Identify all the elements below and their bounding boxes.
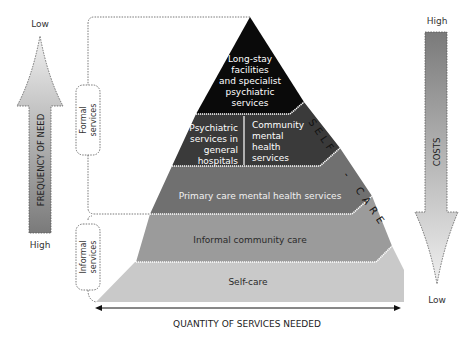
formal-services-label-line2: services — [89, 104, 98, 137]
svg-text:health: health — [252, 142, 281, 152]
svg-text:facilities: facilities — [231, 65, 269, 75]
costs-high-label: High — [427, 16, 448, 26]
pyramid: Long-stay facilities and specialist psyc… — [96, 17, 404, 302]
svg-text:Long-stay: Long-stay — [228, 54, 273, 64]
svg-text:hospitals: hospitals — [198, 156, 239, 166]
informal-services-label-line1: Informal — [79, 240, 88, 273]
svg-text:Community: Community — [252, 120, 305, 130]
self-care-label: Self-care — [228, 277, 268, 287]
primary-care-label: Primary care mental health services — [179, 191, 342, 201]
informal-services-bracket: Informal services — [76, 216, 100, 302]
svg-text:general: general — [204, 145, 238, 155]
arrow-right-icon — [394, 305, 401, 311]
svg-text:services: services — [252, 153, 289, 163]
services-pyramid-diagram: Low High FREQUENCY OF NEED High Low COST… — [0, 0, 476, 341]
frequency-of-need-arrow: Low High FREQUENCY OF NEED — [17, 19, 63, 250]
svg-text:and specialist: and specialist — [219, 76, 281, 86]
svg-text:mental: mental — [252, 131, 284, 141]
frequency-of-need-label: FREQUENCY OF NEED — [36, 113, 46, 206]
svg-text:Psychiatric: Psychiatric — [189, 123, 238, 133]
quantity-axis: QUANTITY OF SERVICES NEEDED — [95, 305, 401, 329]
svg-text:services in: services in — [190, 134, 238, 144]
informal-community-care-label: Informal community care — [193, 235, 307, 245]
informal-services-label-line2: services — [89, 241, 98, 274]
frequency-low-label: Low — [31, 19, 49, 29]
costs-arrow: High Low COSTS — [415, 16, 458, 305]
costs-low-label: Low — [428, 295, 446, 305]
costs-label: COSTS — [432, 138, 442, 167]
frequency-high-label: High — [30, 240, 51, 250]
quantity-of-services-label: QUANTITY OF SERVICES NEEDED — [173, 319, 321, 329]
svg-text:psychiatric: psychiatric — [225, 87, 274, 97]
arrow-left-icon — [95, 305, 102, 311]
formal-services-label-line1: Formal — [79, 106, 88, 133]
svg-text:services: services — [232, 98, 269, 108]
